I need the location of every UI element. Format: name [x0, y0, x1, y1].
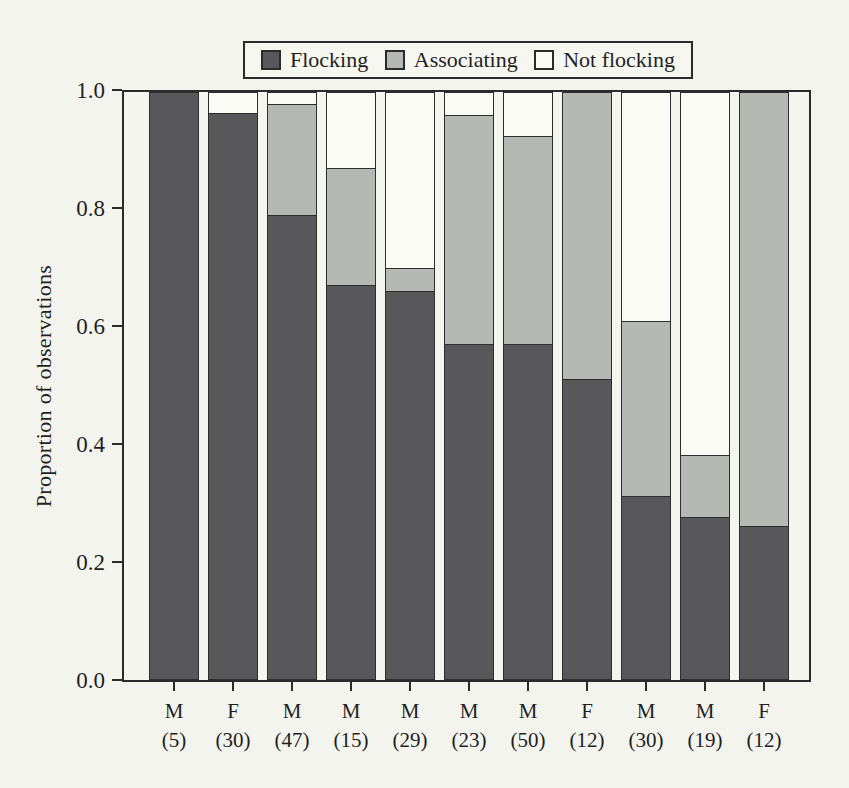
- bar-segment-not-flocking: [504, 93, 552, 137]
- x-axis-tick: [704, 682, 706, 691]
- not-flocking-swatch-icon: [534, 50, 554, 70]
- x-label-sample-size: (12): [732, 730, 796, 751]
- bar-segment-not-flocking: [327, 93, 375, 169]
- y-tick-label: 0.8: [57, 197, 105, 220]
- x-label-sex: M: [496, 701, 560, 722]
- bar-segment-flocking: [386, 292, 434, 679]
- stacked-bar-11: [739, 92, 789, 680]
- x-label-sample-size: (29): [378, 730, 442, 751]
- bar-segment-not-flocking: [268, 93, 316, 105]
- stacked-bar-7: [503, 92, 553, 680]
- y-axis-tick: [112, 561, 122, 563]
- legend-label-associating: Associating: [414, 49, 518, 71]
- y-axis-tick: [112, 443, 122, 445]
- y-axis-tick: [112, 679, 122, 681]
- bar-segment-not-flocking: [622, 93, 670, 322]
- x-label-sample-size: (47): [260, 730, 324, 751]
- x-label-sample-size: (15): [319, 730, 383, 751]
- stacked-bar-9: [621, 92, 671, 680]
- x-axis-tick: [527, 682, 529, 691]
- bar-segment-flocking: [445, 345, 493, 679]
- y-axis-title: Proportion of observations: [31, 265, 57, 507]
- bar-segment-flocking: [268, 216, 316, 679]
- bar-segment-associating: [268, 105, 316, 216]
- x-axis-tick: [291, 682, 293, 691]
- stacked-bar-2: [208, 92, 258, 680]
- bar-segment-flocking: [740, 527, 788, 679]
- x-axis-tick: [173, 682, 175, 691]
- bar-segment-flocking: [209, 114, 257, 679]
- x-label-sex: F: [555, 701, 619, 722]
- scanned-figure-page: Flocking Associating Not flocking Propor…: [0, 0, 849, 788]
- stacked-bar-6: [444, 92, 494, 680]
- legend-item-flocking: Flocking: [261, 49, 368, 71]
- bar-segment-associating: [681, 456, 729, 518]
- bar-segment-not-flocking: [209, 93, 257, 114]
- x-axis-tick: [763, 682, 765, 691]
- x-tick-label: M(29): [378, 701, 442, 751]
- associating-swatch-icon: [385, 50, 405, 70]
- x-axis-tick: [645, 682, 647, 691]
- x-label-sex: F: [201, 701, 265, 722]
- x-label-sample-size: (5): [142, 730, 206, 751]
- bar-segment-associating: [563, 93, 611, 380]
- bar-segment-associating: [445, 116, 493, 345]
- plot-area: [122, 90, 811, 682]
- x-tick-label: M(50): [496, 701, 560, 751]
- x-label-sample-size: (19): [673, 730, 737, 751]
- legend-item-not-flocking: Not flocking: [534, 49, 675, 71]
- y-axis-tick: [112, 207, 122, 209]
- x-axis-tick: [350, 682, 352, 691]
- y-tick-label: 0.4: [57, 433, 105, 456]
- y-axis-tick: [112, 325, 122, 327]
- bar-segment-flocking: [622, 497, 670, 679]
- x-label-sex: F: [732, 701, 796, 722]
- bar-segment-associating: [327, 169, 375, 286]
- x-axis-tick: [468, 682, 470, 691]
- x-label-sex: M: [142, 701, 206, 722]
- bar-segment-flocking: [504, 345, 552, 679]
- y-tick-label: 0.6: [57, 315, 105, 338]
- x-label-sample-size: (23): [437, 730, 501, 751]
- bar-segment-associating: [622, 322, 670, 498]
- y-axis-tick: [112, 89, 122, 91]
- x-tick-label: M(23): [437, 701, 501, 751]
- chart-legend: Flocking Associating Not flocking: [243, 41, 693, 79]
- bar-segment-not-flocking: [386, 93, 434, 269]
- x-tick-label: M(19): [673, 701, 737, 751]
- bar-segment-not-flocking: [681, 93, 729, 456]
- x-label-sex: M: [614, 701, 678, 722]
- x-label-sample-size: (30): [614, 730, 678, 751]
- x-tick-label: M(15): [319, 701, 383, 751]
- stacked-bar-1: [149, 92, 199, 680]
- legend-label-not-flocking: Not flocking: [563, 49, 675, 71]
- bar-segment-flocking: [150, 93, 198, 679]
- stacked-bar-5: [385, 92, 435, 680]
- legend-label-flocking: Flocking: [290, 49, 368, 71]
- stacked-bar-4: [326, 92, 376, 680]
- x-tick-label: M(30): [614, 701, 678, 751]
- x-axis-tick: [409, 682, 411, 691]
- stacked-bar-3: [267, 92, 317, 680]
- y-tick-label: 0.2: [57, 551, 105, 574]
- x-tick-label: M(5): [142, 701, 206, 751]
- flocking-swatch-icon: [261, 50, 281, 70]
- x-label-sample-size: (50): [496, 730, 560, 751]
- x-label-sample-size: (12): [555, 730, 619, 751]
- bar-segment-flocking: [327, 286, 375, 679]
- stacked-bar-10: [680, 92, 730, 680]
- bar-segment-flocking: [563, 380, 611, 679]
- legend-item-associating: Associating: [385, 49, 518, 71]
- bar-segment-not-flocking: [445, 93, 493, 116]
- y-tick-label: 0.0: [57, 669, 105, 692]
- bar-segment-associating: [386, 269, 434, 292]
- x-label-sex: M: [319, 701, 383, 722]
- x-label-sex: M: [437, 701, 501, 722]
- x-axis-tick: [586, 682, 588, 691]
- x-tick-label: F(12): [555, 701, 619, 751]
- x-tick-label: F(30): [201, 701, 265, 751]
- x-axis-tick: [232, 682, 234, 691]
- stacked-bar-8: [562, 92, 612, 680]
- x-tick-label: M(47): [260, 701, 324, 751]
- x-label-sex: M: [673, 701, 737, 722]
